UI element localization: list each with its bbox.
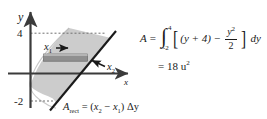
- bracket-close: ]: [241, 29, 246, 48]
- bracket-open: [: [173, 29, 178, 48]
- caption-close-paren: ): [121, 101, 125, 112]
- area-between-curves-figure: y x 4 -2 x1 x2 A = ∫ 4 -2 [ (y + 4) − y2…: [0, 0, 267, 119]
- representative-rectangle: [44, 54, 88, 61]
- y-axis-label: y: [17, 10, 24, 24]
- equation-equals: =: [150, 33, 156, 44]
- rectangle-area-caption: Arect = (x2 − x1) Δy: [63, 101, 139, 114]
- equation-result-exponent: 2: [186, 59, 190, 67]
- fraction-denominator: 2: [227, 41, 236, 52]
- equation-line-2: = 18 u2: [158, 60, 267, 72]
- caption-a-subscript: rect: [69, 107, 79, 114]
- integral-upper-limit: 4: [168, 25, 172, 32]
- x-axis-label: x: [123, 77, 128, 87]
- caption-minus: −: [104, 101, 110, 112]
- y-tick-label-neg2: -2: [14, 95, 23, 107]
- shaded-region: [30, 28, 110, 103]
- x1-annotation: x1: [43, 41, 52, 54]
- integral-lower-limit: -2: [163, 45, 169, 52]
- fraction-numerator: y2: [225, 26, 237, 38]
- equation-result: = 18 u: [158, 60, 186, 72]
- fraction-y-squared-over-2: y2 2: [225, 26, 237, 51]
- caption-equals: =: [82, 101, 88, 112]
- y-tick-label-4: 4: [17, 27, 23, 39]
- differential-dy: dy: [250, 33, 260, 44]
- x2-annotation: x2: [106, 61, 115, 74]
- integral-sign: ∫ 4 -2: [161, 28, 170, 50]
- caption-x2-subscript: 2: [99, 107, 102, 114]
- x2-pointer-arrow: [92, 61, 105, 67]
- integrand-first-term: (y + 4): [180, 33, 211, 44]
- equation-line-1: A = ∫ 4 -2 [ (y + 4) − y2 2 ] dy: [140, 26, 267, 51]
- equation-lhs: A: [140, 33, 147, 44]
- integrand-minus: −: [214, 33, 220, 44]
- integral-equation: A = ∫ 4 -2 [ (y + 4) − y2 2 ] dy = 18 u2: [140, 26, 267, 72]
- caption-delta-y: Δy: [127, 101, 139, 112]
